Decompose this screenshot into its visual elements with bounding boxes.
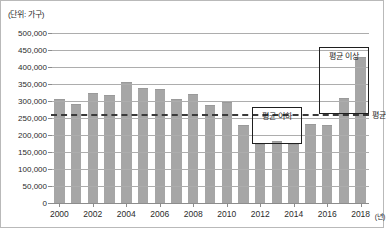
x-axis-tick-mark [294,203,295,207]
y-axis-tick-mark [48,186,52,187]
y-axis-tick-label: 50,000 [5,182,47,191]
x-axis-tick-label: 2008 [184,209,203,219]
y-axis-tick-mark [48,33,52,34]
gridline [51,33,369,34]
y-axis-unit-label: (단위: 가구) [8,8,44,19]
x-axis-tick-mark [59,203,60,207]
gridline [51,152,369,153]
y-axis-tick-label: 250,000 [5,114,47,123]
y-axis-tick-label: 150,000 [5,148,47,157]
y-axis-tick-label: 200,000 [5,131,47,140]
x-axis-tick-label: 2004 [117,209,136,219]
x-axis-tick-mark [327,203,328,207]
y-axis-tick-label: 100,000 [5,165,47,174]
y-axis-tick-label: 0 [5,199,47,208]
x-axis-tick-mark [93,203,94,207]
x-axis-unit-label: (년) [375,211,386,221]
y-axis-tick-mark [48,84,52,85]
gridline [51,186,369,187]
x-axis-tick-label: 2000 [50,209,69,219]
x-axis-tick-label: 2006 [150,209,169,219]
gridline [51,118,369,119]
x-axis-tick-mark [126,203,127,207]
y-axis-tick-label: 300,000 [5,97,47,106]
x-axis-tick-label: 2012 [251,209,270,219]
x-axis-line [51,203,369,204]
x-axis-tick-mark [260,203,261,207]
y-axis-tick-mark [48,50,52,51]
y-axis-tick-mark [48,118,52,119]
callout-label: 평균 이하 [252,110,302,121]
y-axis-tick-label: 350,000 [5,80,47,89]
gridline [51,169,369,170]
x-axis-tick-mark [193,203,194,207]
x-axis-tick-label: 2014 [284,209,303,219]
y-axis-tick-mark [48,67,52,68]
bar [305,124,315,203]
y-axis-tick-label: 450,000 [5,46,47,55]
average-line [51,114,369,116]
x-axis-tick-mark [227,203,228,207]
gridline [51,135,369,136]
bar [272,141,282,203]
bar [238,125,248,203]
bar [205,105,215,203]
bar [255,144,265,203]
y-axis-tick-mark [48,169,52,170]
callout-label: 평균 이상 [319,50,369,61]
average-line-label: 평균 [372,108,386,119]
x-axis-tick-label: 2002 [83,209,102,219]
y-axis-tick-label: 400,000 [5,63,47,72]
x-axis-tick-mark [361,203,362,207]
y-axis-tick-label: 500,000 [5,29,47,38]
x-axis-tick-label: 2010 [217,209,236,219]
y-axis-tick-mark [48,152,52,153]
x-axis-tick-label: 2018 [351,209,370,219]
y-axis-tick-mark [48,135,52,136]
x-axis-tick-label: 2016 [318,209,337,219]
y-axis-tick-mark [48,101,52,102]
bar [322,125,332,203]
x-axis-tick-mark [160,203,161,207]
